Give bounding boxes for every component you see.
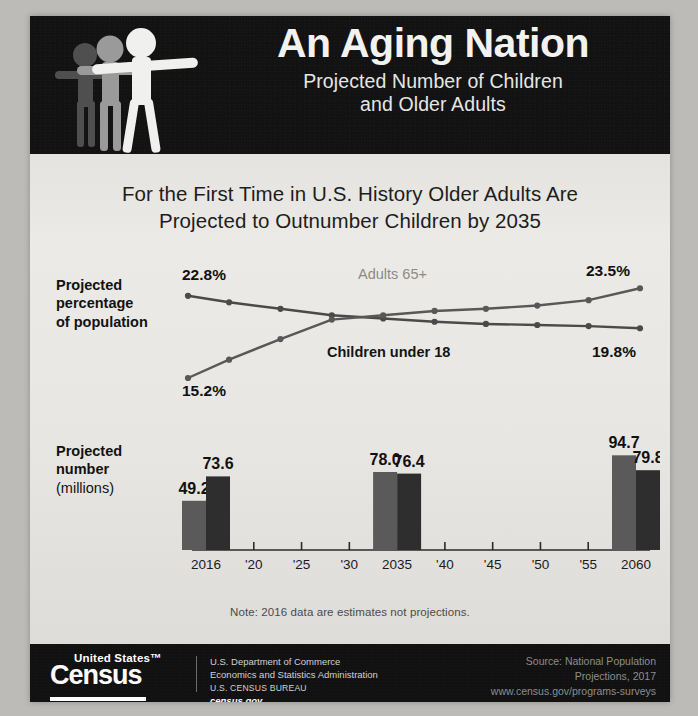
three-people-silhouette-icon [55, 21, 205, 153]
bar-chart-tick-label: '30 [341, 557, 359, 572]
header-text-block: An Aging Nation Projected Number of Chil… [198, 22, 668, 116]
agency-line-department: U.S. Department of Commerce [210, 655, 378, 668]
source-line1: Source: National Population [376, 654, 656, 669]
census-bureau-logo: United States™ Census Bureau [50, 652, 185, 702]
agency-website[interactable]: census.gov [210, 694, 378, 702]
bar-chart-tick-label: 2016 [191, 557, 221, 572]
line-data-point [329, 317, 335, 323]
bar-adults-value-label-2060: 79.8 [632, 449, 660, 466]
line-series-adults-65- [188, 288, 640, 378]
line-chart-axis-label-line1: Projected [56, 276, 191, 294]
bar-chart-tick-label: 2060 [621, 557, 651, 572]
bar-adults-2060 [636, 470, 660, 550]
line-data-point [637, 285, 643, 291]
bar-chart: 2016'20'25'302035'40'45'50'55206049.273.… [170, 424, 660, 589]
source-url-line2[interactable]: /popproj.html [376, 700, 656, 702]
footer-divider [196, 656, 197, 692]
bar-chart-tick-label: '20 [245, 557, 263, 572]
agency-line-administration: Economics and Statistics Administration [210, 668, 378, 681]
line-chart [180, 264, 650, 399]
source-line2: Projections, 2017 [376, 669, 656, 684]
poster-header: An Aging Nation Projected Number of Chil… [30, 16, 670, 154]
logo-rule-and-bureau: Bureau [50, 688, 185, 702]
line-data-point [483, 321, 489, 327]
line-data-point [431, 319, 437, 325]
line-data-point [637, 325, 643, 331]
poster-body: For the First Time in U.S. History Older… [30, 154, 670, 644]
line-data-point [277, 336, 283, 342]
line-data-point [380, 312, 386, 318]
infographic-poster: An Aging Nation Projected Number of Chil… [0, 0, 698, 716]
source-info: Source: National Population Projections,… [376, 654, 656, 702]
poster-subtitle-line1: Projected Number of Children [198, 70, 668, 93]
source-url-line1[interactable]: www.census.gov/programs-surveys [376, 684, 656, 699]
bar-adults-value-label-2035: 76.4 [394, 453, 425, 470]
bar-children-value-label-2016: 49.2 [178, 480, 209, 497]
line-data-point [226, 357, 232, 363]
line-data-point [226, 299, 232, 305]
logo-rule [50, 697, 146, 701]
logo-census-text: Census [50, 663, 185, 688]
line-data-point [586, 323, 592, 329]
headline-line1: For the First Time in U.S. History Older… [60, 180, 640, 207]
bar-adults-value-label-2016: 73.6 [202, 455, 233, 472]
poster-footer: United States™ Census Bureau U.S. Depart… [30, 644, 670, 702]
line-chart-axis-label-line3: of population [56, 313, 191, 331]
line-data-point [185, 375, 191, 381]
bar-chart-tick-label: '50 [532, 557, 550, 572]
headline-line2: Projected to Outnumber Children by 2035 [60, 207, 640, 234]
bar-chart-tick-label: '40 [436, 557, 454, 572]
line-data-point [277, 306, 283, 312]
bar-adults-2035 [397, 474, 421, 550]
line-chart-axis-label-line2: percentage [56, 294, 191, 312]
bar-children-2016 [182, 501, 206, 550]
bar-chart-tick-label: '25 [293, 557, 311, 572]
poster-subtitle-line2: and Older Adults [198, 93, 668, 116]
line-data-point [586, 297, 592, 303]
agency-info: U.S. Department of Commerce Economics an… [210, 655, 378, 702]
bar-chart-tick-label: '45 [484, 557, 502, 572]
bar-chart-tick-label: '55 [579, 557, 597, 572]
bar-chart-svg: 2016'20'25'302035'40'45'50'55206049.273.… [170, 424, 660, 589]
headline: For the First Time in U.S. History Older… [60, 180, 640, 234]
bar-adults-2016 [206, 476, 230, 550]
agency-line-bureau: U.S. CENSUS BUREAU [210, 682, 378, 694]
line-data-point [483, 306, 489, 312]
chart-note: Note: 2016 data are estimates not projec… [30, 606, 670, 618]
line-chart-axis-label: Projected percentage of population [56, 276, 191, 331]
line-data-point [534, 322, 540, 328]
poster-subtitle: Projected Number of Children and Older A… [198, 70, 668, 116]
bar-chart-tick-label: 2035 [382, 557, 412, 572]
bar-children-2035 [373, 472, 397, 550]
poster-sheet: An Aging Nation Projected Number of Chil… [30, 16, 670, 702]
poster-title: An Aging Nation [198, 22, 668, 65]
line-data-point [534, 302, 540, 308]
line-data-point [431, 308, 437, 314]
line-chart-svg [180, 264, 650, 399]
bar-children-2060 [612, 455, 636, 550]
line-data-point [185, 293, 191, 299]
